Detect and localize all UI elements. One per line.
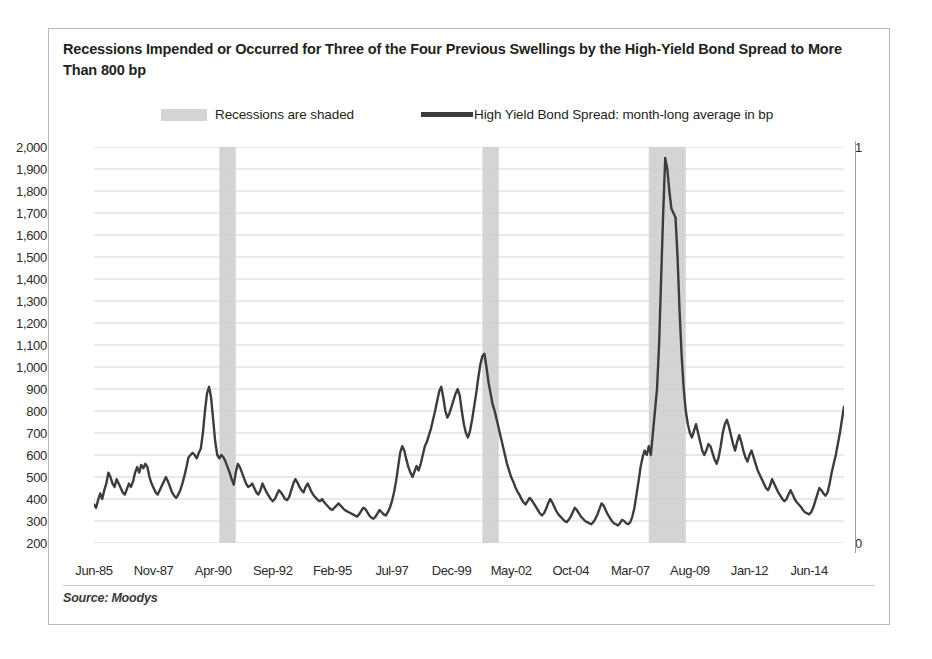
legend-item-recessions: Recessions are shaded xyxy=(161,107,354,122)
y-axis-tick-label: 1,100 xyxy=(16,339,47,352)
source-divider xyxy=(63,585,875,586)
y-axis-tick-label: 1,500 xyxy=(16,251,47,264)
y-axis-tick-label: 800 xyxy=(26,405,47,418)
y-axis-labels: 2,0001,9001,8001,7001,6001,5001,4001,300… xyxy=(1,147,47,543)
x-axis-tick-label: Sep-92 xyxy=(253,563,293,578)
line-swatch-icon xyxy=(421,112,473,117)
x-axis-tick-label: Jul-97 xyxy=(375,563,408,578)
x-axis-tick-label: May-02 xyxy=(491,563,532,578)
y-axis-tick-label: 1,900 xyxy=(16,163,47,176)
y-axis-tick-label: 2,000 xyxy=(16,141,47,154)
x-axis-tick-label: Oct-04 xyxy=(552,563,589,578)
right-axis-labels: 10 xyxy=(846,147,886,543)
x-axis-tick-label: Dec-99 xyxy=(432,563,472,578)
y-axis-tick-label: 1,600 xyxy=(16,229,47,242)
y-axis-tick-label: 700 xyxy=(26,427,47,440)
chart-card: Recessions Impended or Occurred for Thre… xyxy=(48,28,890,625)
y-axis-tick-label: 1,300 xyxy=(16,295,47,308)
y-axis-tick-label: 1,000 xyxy=(16,361,47,374)
recession-swatch-icon xyxy=(161,109,207,121)
x-axis-tick-label: Mar-07 xyxy=(611,563,650,578)
source-note: Source: Moodys xyxy=(63,591,157,605)
y-axis-tick-label: 300 xyxy=(26,515,47,528)
y-axis-tick-label: 200 xyxy=(26,537,47,550)
x-axis-labels: Jun-85Nov-87Apr-90Sep-92Feb-95Jul-97Dec-… xyxy=(94,557,844,583)
y-axis-tick-label: 400 xyxy=(26,493,47,506)
right-axis-tick-label: 0 xyxy=(855,537,862,550)
right-axis-tick-label: 1 xyxy=(855,141,862,154)
legend-item-spread: High Yield Bond Spread: month-long avera… xyxy=(421,107,773,122)
chart-screenshot: Recessions Impended or Occurred for Thre… xyxy=(0,0,932,659)
y-axis-tick-label: 600 xyxy=(26,449,47,462)
y-axis-tick-label: 1,200 xyxy=(16,317,47,330)
y-axis-tick-label: 1,800 xyxy=(16,185,47,198)
chart-svg xyxy=(94,147,844,543)
chart-legend: Recessions are shaded High Yield Bond Sp… xyxy=(49,107,891,129)
x-axis-tick-label: Aug-09 xyxy=(670,563,710,578)
x-axis-tick-label: Apr-90 xyxy=(195,563,232,578)
plot-area xyxy=(94,147,844,543)
y-axis-tick-label: 900 xyxy=(26,383,47,396)
x-axis-tick-label: Jun-85 xyxy=(75,563,112,578)
x-axis-tick-label: Nov-87 xyxy=(134,563,174,578)
legend-label-spread: High Yield Bond Spread: month-long avera… xyxy=(474,107,773,122)
x-axis-tick-label: Jan-12 xyxy=(731,563,768,578)
legend-label-recessions: Recessions are shaded xyxy=(215,107,354,122)
right-axis-line xyxy=(855,141,856,553)
x-axis-tick-label: Feb-95 xyxy=(313,563,352,578)
x-axis-tick-label: Jun-14 xyxy=(790,563,827,578)
y-axis-tick-label: 1,700 xyxy=(16,207,47,220)
chart-title: Recessions Impended or Occurred for Thre… xyxy=(63,39,853,81)
y-axis-tick-label: 500 xyxy=(26,471,47,484)
y-axis-tick-label: 1,400 xyxy=(16,273,47,286)
